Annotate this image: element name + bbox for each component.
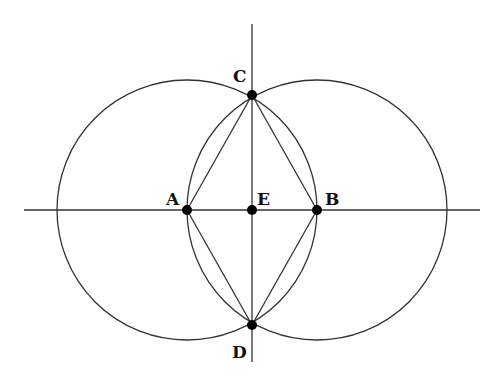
label-e: E <box>257 189 270 209</box>
geometry-diagram: A B C D E <box>0 0 501 380</box>
label-d: D <box>232 342 247 362</box>
point-b <box>312 205 322 215</box>
label-a: A <box>165 189 180 209</box>
segment-ac <box>187 95 252 210</box>
label-b: B <box>325 189 339 209</box>
point-a <box>182 205 192 215</box>
point-d <box>247 320 257 330</box>
point-c <box>247 90 257 100</box>
label-c: C <box>233 66 247 86</box>
point-e <box>247 205 257 215</box>
segment-bd <box>252 210 317 325</box>
segment-da <box>187 210 252 325</box>
